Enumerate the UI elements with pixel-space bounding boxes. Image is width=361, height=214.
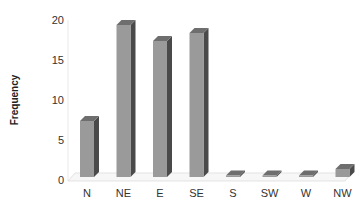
y-tick-20: 20	[44, 14, 64, 26]
bar-chart: Frequency 05101520 NNEESESSWWNW	[0, 0, 361, 214]
x-tick-se: SE	[182, 187, 212, 199]
bar-ne	[117, 20, 136, 177]
y-axis-label: Frequency	[9, 75, 20, 126]
x-tick-ne: NE	[109, 187, 139, 199]
x-tick-n: N	[72, 187, 102, 199]
y-tick-15: 15	[44, 54, 64, 66]
bar-se	[190, 28, 209, 177]
bar-e	[153, 36, 172, 177]
x-tick-s: S	[218, 187, 248, 199]
y-tick-0: 0	[44, 174, 64, 186]
y-tick-10: 10	[44, 94, 64, 106]
y-tick-5: 5	[44, 134, 64, 146]
x-tick-sw: SW	[255, 187, 285, 199]
x-tick-nw: NW	[328, 187, 358, 199]
x-tick-e: E	[145, 187, 175, 199]
bar-n	[80, 116, 99, 177]
x-tick-w: W	[291, 187, 321, 199]
bar-nw	[336, 164, 355, 177]
